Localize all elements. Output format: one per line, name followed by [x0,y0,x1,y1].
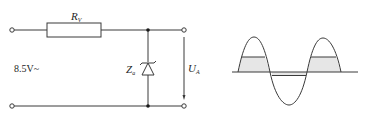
zener-diode-icon [140,61,156,75]
zener-label: Za [126,63,135,76]
top-junction-dot [146,28,150,32]
circuit-diagram: RV Za UA 8.5V~ [0,0,365,120]
zener-limiter-circuit: RV Za UA 8.5V~ [10,10,200,108]
resistor-rv [47,23,101,37]
shaded-negative-strip [272,72,306,76]
clipped-sine-waveform [232,37,358,105]
shaded-region-1 [238,57,270,72]
output-terminal-top [182,28,186,32]
bottom-junction-dot [146,104,150,108]
input-terminal-bottom [10,104,14,108]
resistor-label: RV [70,10,83,23]
arrow-down-icon [183,95,186,100]
output-terminal-bottom [182,104,186,108]
output-voltage-label: UA [188,62,200,75]
shaded-region-2 [307,57,341,72]
source-voltage-label: 8.5V~ [14,63,40,74]
input-terminal-top [10,28,14,32]
